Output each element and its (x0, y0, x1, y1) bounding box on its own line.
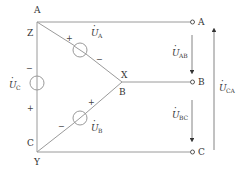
source-u-b (73, 111, 87, 125)
source-u-c (30, 76, 44, 90)
u-ca-label: U · CA (219, 76, 236, 94)
u-ca-subscript: CA (226, 87, 236, 94)
u-b-label: U · B (91, 116, 103, 134)
wire-diag-a-lower (86, 54, 122, 82)
u-a-label: U · A (91, 21, 103, 39)
u-bc-dot: · (174, 103, 177, 113)
u-c-plus-sign: + (27, 104, 34, 113)
voltage-arrows (192, 30, 214, 150)
terminal-label-a: A (197, 17, 205, 27)
node-label-b: B (119, 87, 126, 97)
node-label-x: X (121, 70, 128, 80)
node-label-a: A (33, 5, 41, 15)
terminals (191, 20, 195, 154)
terminal-label-b: B (198, 77, 205, 87)
source-u-a (73, 43, 87, 57)
terminal-b-icon (191, 80, 195, 84)
u-bc-subscript: BC (179, 114, 189, 121)
u-a-subscript: A (97, 32, 103, 39)
u-c-dot: · (11, 73, 14, 83)
u-c-minus-sign: − (26, 64, 33, 73)
u-c-subscript: C (16, 84, 21, 91)
delta-connection-diagram: A Z X B C Y A B C + − U · A + − U · B − … (0, 0, 243, 170)
terminal-c-icon (191, 150, 195, 154)
u-bc-label: U · BC (172, 103, 189, 121)
terminal-a-icon (191, 20, 195, 24)
wires (37, 22, 190, 152)
u-ab-subscript: AB (178, 52, 188, 59)
node-label-y: Y (33, 157, 41, 167)
u-a-plus-sign: + (66, 34, 73, 43)
u-ab-dot: · (174, 41, 177, 51)
u-a-minus-sign: − (96, 55, 103, 64)
u-b-minus-sign: − (58, 122, 65, 131)
u-b-dot: · (93, 116, 96, 126)
u-a-dot: · (93, 21, 96, 31)
circuit-svg: A Z X B C Y A B C + − U · A + − U · B − … (0, 0, 243, 170)
u-b-subscript: B (98, 127, 103, 134)
terminal-label-c: C (198, 147, 205, 157)
u-b-plus-sign: + (88, 98, 95, 107)
u-ab-label: U · AB (172, 41, 188, 59)
u-c-label: U · C (9, 73, 21, 91)
u-ca-dot: · (221, 76, 224, 86)
node-label-c: C (27, 138, 34, 148)
wire-diag-b-lower (37, 123, 74, 152)
node-label-z: Z (27, 28, 33, 38)
